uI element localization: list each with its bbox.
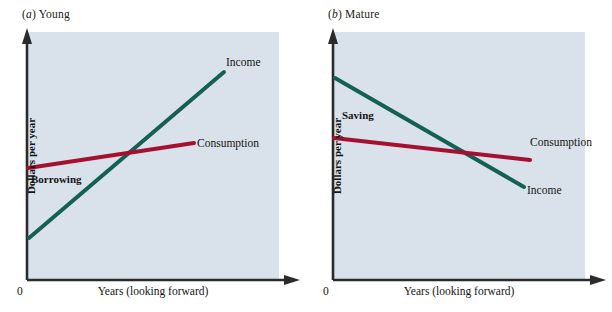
plot-area-mature: Saving Consumption Income Dollars per ye… <box>333 32 585 280</box>
x-axis-label-young: Years (looking forward) <box>27 285 279 297</box>
y-axis-label-young: Dollars per year <box>25 66 37 246</box>
origin-label-mature: 0 <box>323 285 329 297</box>
x-axis-arrowhead-young <box>284 275 300 285</box>
consumption-line-young <box>28 143 194 168</box>
income-line-mature <box>335 78 524 187</box>
two-panel-figure: (a) Young Income Consumption Borrowing D… <box>0 0 612 312</box>
y-axis-arrowhead-young <box>22 28 32 44</box>
panel-young: (a) Young Income Consumption Borrowing D… <box>0 0 306 312</box>
plot-svg-young <box>0 0 306 280</box>
y-axis-label-mature: Dollars per year <box>331 66 343 246</box>
consumption-line-mature <box>334 138 530 160</box>
region-label-borrowing: Borrowing <box>31 173 82 185</box>
x-axis-label-mature: Years (looking forward) <box>333 285 585 297</box>
y-axis-arrowhead-mature <box>328 28 338 44</box>
panel-mature: (b) Mature Saving Consumption Income Dol… <box>306 0 612 312</box>
consumption-label-young: Consumption <box>197 137 259 149</box>
region-label-saving: Saving <box>342 109 374 121</box>
x-axis-arrowhead-mature <box>590 275 606 285</box>
origin-label-young: 0 <box>17 285 23 297</box>
income-label-mature: Income <box>527 184 561 196</box>
income-label-young: Income <box>226 56 260 68</box>
consumption-label-mature: Consumption <box>530 136 592 148</box>
plot-area-young: Income Consumption Borrowing Dollars per… <box>27 32 279 280</box>
